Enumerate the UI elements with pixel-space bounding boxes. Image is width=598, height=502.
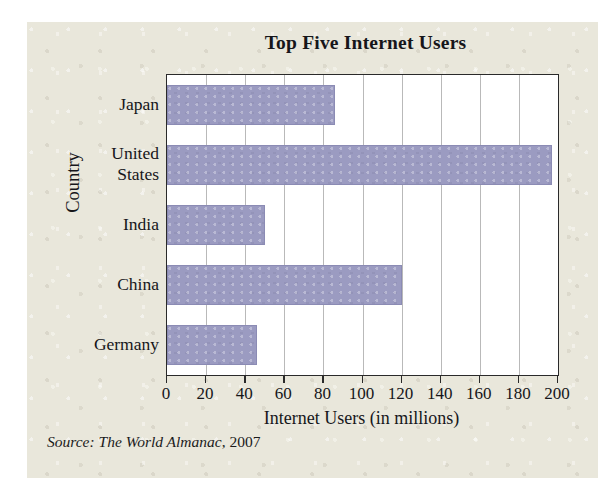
bar-india[interactable] xyxy=(167,205,265,245)
figure-panel: Top Five Internet Users 0204060801001201… xyxy=(27,22,598,478)
x-tick-mark xyxy=(557,376,558,383)
category-label-line: China xyxy=(46,274,159,295)
category-label-japan: Japan xyxy=(46,94,159,115)
x-tick-label: 120 xyxy=(388,384,414,404)
source-publication: The World Almanac xyxy=(99,433,222,450)
category-label-line: India xyxy=(46,214,159,235)
category-label-line: Japan xyxy=(46,94,159,115)
x-tick-label: 0 xyxy=(162,384,171,404)
category-label-line: States xyxy=(46,164,159,185)
x-tick-label: 140 xyxy=(427,384,453,404)
category-label-line: United xyxy=(46,143,159,164)
x-tick-mark xyxy=(166,376,167,383)
bar-row xyxy=(167,255,558,315)
x-tick-label: 100 xyxy=(349,384,375,404)
x-tick-mark xyxy=(440,376,441,383)
x-tick-mark xyxy=(479,376,480,383)
x-tick-mark xyxy=(401,376,402,383)
category-label-united-states: UnitedStates xyxy=(46,143,159,185)
source-note: Source: The World Almanac, 2007 xyxy=(47,433,260,451)
x-tick-mark xyxy=(518,376,519,383)
x-tick-label: 40 xyxy=(236,384,253,404)
x-tick-label: 200 xyxy=(544,384,570,404)
source-year: 2007 xyxy=(229,433,260,450)
category-label-india: India xyxy=(46,214,159,235)
bar-row xyxy=(167,315,558,375)
x-tick-label: 180 xyxy=(505,384,531,404)
category-label-germany: Germany xyxy=(46,334,159,355)
bar-germany[interactable] xyxy=(167,325,257,365)
x-tick-mark xyxy=(322,376,323,383)
bar-texture xyxy=(168,86,334,124)
bar-texture xyxy=(168,326,256,364)
bar-texture xyxy=(168,266,401,304)
x-tick-mark xyxy=(244,376,245,383)
bar-row xyxy=(167,75,558,135)
bar-texture xyxy=(168,206,264,244)
x-tick-mark xyxy=(205,376,206,383)
bar-texture xyxy=(168,146,551,184)
bar-japan[interactable] xyxy=(167,85,335,125)
bar-row xyxy=(167,135,558,195)
bar-china[interactable] xyxy=(167,265,402,305)
x-tick-label: 20 xyxy=(197,384,214,404)
x-tick-mark xyxy=(283,376,284,383)
category-label-china: China xyxy=(46,274,159,295)
x-tick-mark xyxy=(362,376,363,383)
y-axis-category-labels: JapanUnitedStatesIndiaChinaGermany xyxy=(46,74,159,374)
plot-area xyxy=(166,74,559,376)
x-tick-label: 60 xyxy=(275,384,292,404)
x-tick-label: 160 xyxy=(466,384,492,404)
chart-title: Top Five Internet Users xyxy=(27,32,598,54)
bar-row xyxy=(167,195,558,255)
x-axis-title: Internet Users (in millions) xyxy=(166,408,557,429)
bar-united-states[interactable] xyxy=(167,145,552,185)
bars-layer xyxy=(167,75,558,375)
x-axis-tick-marks xyxy=(166,376,557,384)
x-axis-tick-labels: 020406080100120140160180200 xyxy=(166,384,557,406)
x-tick-label: 80 xyxy=(314,384,331,404)
category-label-line: Germany xyxy=(46,334,159,355)
source-prefix: Source: xyxy=(47,433,95,450)
